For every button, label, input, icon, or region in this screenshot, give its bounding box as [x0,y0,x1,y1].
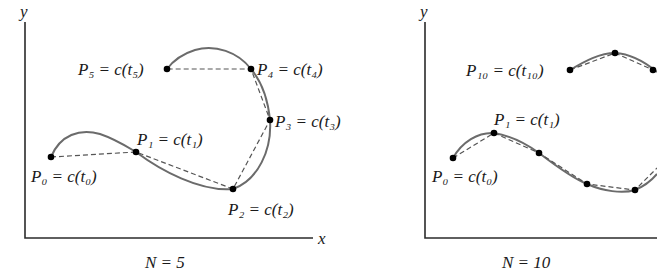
point-p4 [248,66,255,73]
point-p1-n10 [491,130,498,137]
point-p0-n10 [450,155,457,162]
label-p1-n10: P₁ = c(t₁) [493,110,560,129]
y-axis-label-n10: y [418,2,428,21]
point-p1 [133,149,140,156]
point-p0 [48,154,55,161]
label-p10-n10: P₁₀ = c(t₁₀) [465,61,544,80]
label-p0: P₀ = c(t₀) [30,167,97,186]
panel-n10: y P₀ = c(t₀) P₁ = c(t₁) P₁₀ = c(t₁₀) N =… [418,2,657,270]
x-axis-label: x [317,229,326,248]
label-p3: P₃ = c(t₃) [274,112,341,131]
panel-n5: y x P₀ = c(t₀) P₁ = c(t₁) P₂ = c(t₂) P₃ … [18,2,341,270]
label-p2: P₂ = c(t₂) [227,200,294,219]
point-p5 [164,66,171,73]
label-p5: P₅ = c(t₅) [77,60,144,79]
point-p2 [230,186,237,193]
polygonal-approximation-figure: y x P₀ = c(t₀) P₁ = c(t₁) P₂ = c(t₂) P₃ … [0,0,657,270]
point-p3 [267,117,274,124]
y-axis-label: y [18,2,28,21]
label-p1: P₁ = c(t₁) [136,130,203,149]
point-p10-n10 [567,67,574,74]
point-p8-n10 [650,67,657,74]
point-p4-n10 [632,187,639,194]
label-p0-n10: P₀ = c(t₀) [431,167,498,186]
caption-n10: N = 10 [501,253,551,270]
caption-n5: N = 5 [144,253,185,270]
point-p3-n10 [584,181,591,188]
label-p4: P₄ = c(t₄) [256,60,323,79]
point-p2-n10 [536,150,543,157]
point-p9-n10 [612,50,619,57]
